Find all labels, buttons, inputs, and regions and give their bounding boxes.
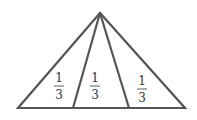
fraction-right: 1 3 [137, 74, 147, 105]
svg-text:3: 3 [91, 88, 99, 102]
svg-text:3: 3 [55, 88, 63, 102]
divider-right [100, 13, 129, 108]
svg-text:1: 1 [91, 71, 99, 85]
svg-text:1: 1 [138, 74, 146, 88]
svg-text:1: 1 [55, 71, 63, 85]
fraction-left: 1 3 [54, 71, 64, 102]
outer-triangle [18, 13, 185, 108]
triangle-diagram: 1 3 1 3 1 3 [0, 0, 197, 120]
svg-text:3: 3 [138, 91, 146, 105]
fraction-middle: 1 3 [90, 71, 100, 102]
